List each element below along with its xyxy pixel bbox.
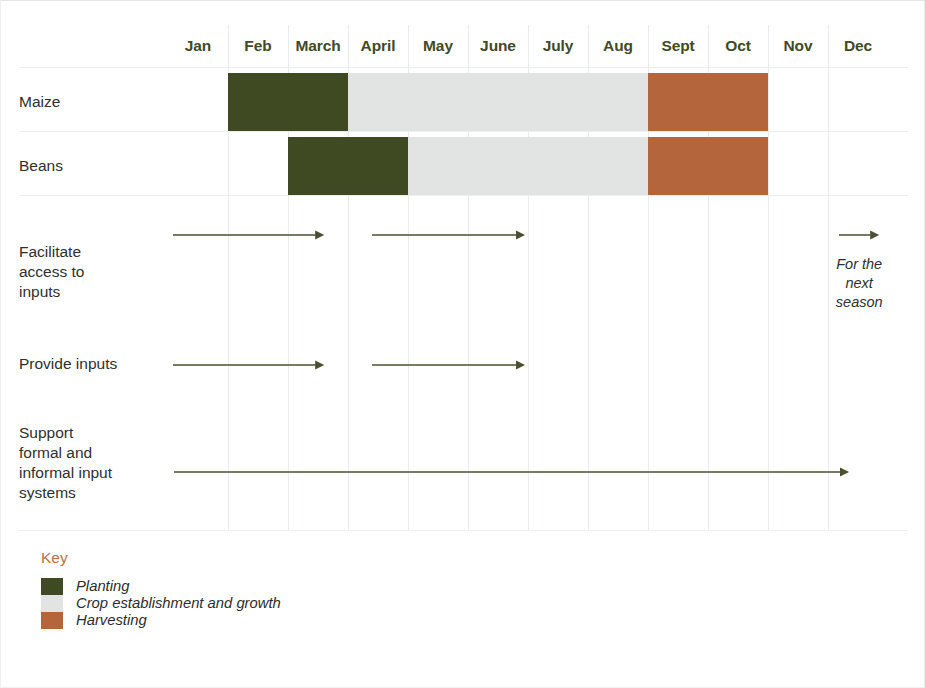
row-separator xyxy=(19,195,908,196)
stage-cell-sept-harvest xyxy=(648,73,708,131)
stage-cell-dec-empty xyxy=(828,137,888,195)
month-label-july: July xyxy=(528,31,588,61)
row-separator xyxy=(19,530,908,531)
month-label-dec: Dec xyxy=(828,31,888,61)
month-label-june: June xyxy=(468,31,528,61)
stage-cell-oct-harvest xyxy=(708,137,768,195)
legend: Key PlantingCrop establishment and growt… xyxy=(41,549,281,629)
row-separator xyxy=(19,131,908,132)
stage-cell-nov-empty xyxy=(768,73,828,131)
timeline-arrow xyxy=(372,359,525,371)
month-label-april: April xyxy=(348,31,408,61)
activity-row-label: Provide inputs xyxy=(19,354,169,374)
month-label-oct: Oct xyxy=(708,31,768,61)
month-label-sept: Sept xyxy=(648,31,708,61)
legend-swatch xyxy=(41,612,63,629)
stage-cell-july-growth xyxy=(528,73,588,131)
stage-cell-may-growth xyxy=(408,137,468,195)
stage-cell-feb-empty xyxy=(228,137,288,195)
stage-cell-nov-empty xyxy=(768,137,828,195)
stage-cell-jan-empty xyxy=(168,73,228,131)
month-label-feb: Feb xyxy=(228,31,288,61)
timeline-arrow xyxy=(173,359,324,371)
row-separator xyxy=(19,67,908,68)
legend-entries: PlantingCrop establishment and growthHar… xyxy=(41,578,281,629)
stage-cell-sept-harvest xyxy=(648,137,708,195)
activity-arrow-layer: For thenextseason xyxy=(168,206,888,331)
activity-arrow-layer xyxy=(168,413,888,523)
crop-stage-bars xyxy=(168,73,888,131)
month-label-march: March xyxy=(288,31,348,61)
activity-row-label: Supportformal andinformal inputsystems xyxy=(19,423,169,503)
stage-cell-may-growth xyxy=(408,73,468,131)
legend-swatch xyxy=(41,578,63,595)
activity-row: Supportformal andinformal inputsystems xyxy=(19,413,908,523)
legend-title: Key xyxy=(41,549,281,567)
month-label-may: May xyxy=(408,31,468,61)
legend-label: Planting xyxy=(76,578,129,595)
stage-cell-june-growth xyxy=(468,137,528,195)
crop-row-label: Beans xyxy=(19,137,164,195)
stage-cell-march-planting xyxy=(288,73,348,131)
timeline-arrow xyxy=(372,229,525,241)
stage-cell-oct-harvest xyxy=(708,73,768,131)
crop-calendar-figure: JanFebMarchAprilMayJuneJulyAugSeptOctNov… xyxy=(0,0,925,688)
legend-swatch xyxy=(41,595,63,612)
crop-row: Maize xyxy=(19,73,908,131)
month-header-row: JanFebMarchAprilMayJuneJulyAugSeptOctNov… xyxy=(168,31,888,61)
activity-arrow-layer xyxy=(168,341,888,403)
stage-cell-april-planting xyxy=(348,137,408,195)
legend-entry: Harvesting xyxy=(41,612,281,629)
stage-cell-aug-growth xyxy=(588,137,648,195)
legend-entry: Planting xyxy=(41,578,281,595)
timeline-arrow xyxy=(839,229,879,241)
stage-cell-dec-empty xyxy=(828,73,888,131)
month-label-jan: Jan xyxy=(168,31,228,61)
activity-row: Facilitateaccess toinputsFor thenextseas… xyxy=(19,206,908,331)
crop-stage-bars xyxy=(168,137,888,195)
crop-row: Beans xyxy=(19,137,908,195)
stage-cell-feb-planting xyxy=(228,73,288,131)
activity-row: Provide inputs xyxy=(19,341,908,403)
legend-label: Harvesting xyxy=(76,612,147,629)
timeline-arrow xyxy=(174,466,849,478)
timeline-arrow xyxy=(173,229,324,241)
stage-cell-july-growth xyxy=(528,137,588,195)
legend-entry: Crop establishment and growth xyxy=(41,595,281,612)
stage-cell-march-planting xyxy=(288,137,348,195)
stage-cell-aug-growth xyxy=(588,73,648,131)
stage-cell-april-growth xyxy=(348,73,408,131)
stage-cell-june-growth xyxy=(468,73,528,131)
next-season-note: For thenextseason xyxy=(830,255,889,312)
crop-row-label: Maize xyxy=(19,73,164,131)
activity-row-label: Facilitateaccess toinputs xyxy=(19,242,169,302)
stage-cell-jan-empty xyxy=(168,137,228,195)
month-label-aug: Aug xyxy=(588,31,648,61)
month-label-nov: Nov xyxy=(768,31,828,61)
legend-label: Crop establishment and growth xyxy=(76,595,281,612)
